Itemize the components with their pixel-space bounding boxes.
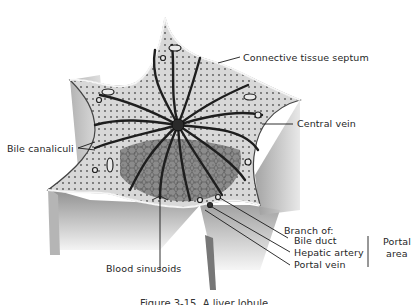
label-portal-area-line2: area xyxy=(386,248,408,259)
label-central-vein: Central vein xyxy=(297,118,356,129)
figure-caption: Figure 3-15. A liver lobule xyxy=(140,298,268,305)
label-portal-vein: Portal vein xyxy=(294,259,346,270)
liver-lobule-figure: Connective tissue septum Central vein Bi… xyxy=(0,0,418,305)
label-bile-canaliculi: Bile canaliculi xyxy=(7,143,74,154)
label-portal-area-line1: Portal xyxy=(383,236,411,247)
label-connective-tissue-septum: Connective tissue septum xyxy=(243,52,369,63)
central-vein-shape xyxy=(172,119,184,131)
label-blood-sinusoids: Blood sinusoids xyxy=(106,263,181,274)
label-hepatic-artery: Hepatic artery xyxy=(294,247,364,258)
label-bile-duct: Bile duct xyxy=(294,235,337,246)
